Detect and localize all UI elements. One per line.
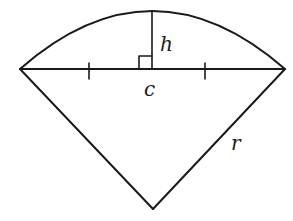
radius-right-line <box>153 69 285 209</box>
label-h: h <box>160 32 173 56</box>
circular-segment-diagram: h c r <box>0 0 293 221</box>
label-c: c <box>144 77 155 101</box>
radius-left-line <box>20 69 153 209</box>
right-angle-marker <box>139 56 152 69</box>
label-r: r <box>231 131 242 155</box>
